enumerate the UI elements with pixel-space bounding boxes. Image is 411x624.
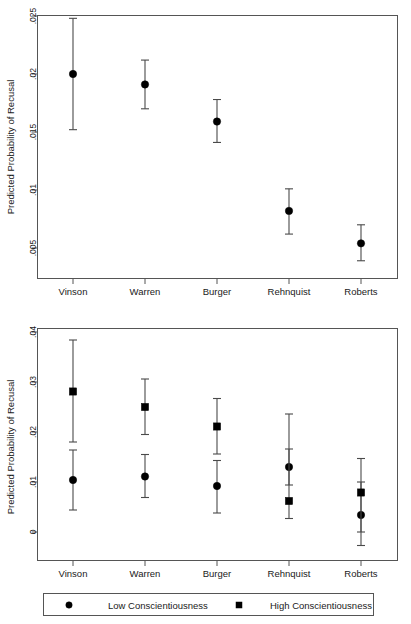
top-xtick-label-rehnquist: Rehnquist — [268, 286, 311, 297]
point-marker-circle — [69, 476, 76, 483]
top-panel: .025 .02 .015 .01 .005 Predicted Probabi… — [5, 7, 398, 297]
top-panel-y-ticks: .025 .02 .015 .01 .005 — [28, 7, 38, 256]
bottom-ytick-label: .03 — [28, 376, 38, 388]
bottom-ytick-label: 0 — [28, 529, 38, 534]
figure-root: .025 .02 .015 .01 .005 Predicted Probabi… — [0, 0, 411, 624]
bottom-xtick-label-burger: Burger — [203, 568, 232, 579]
legend-label-high: High Conscientiousness — [270, 600, 372, 611]
data-marker-group — [69, 450, 77, 510]
data-marker-group — [141, 455, 149, 498]
bottom-panel-y-axis-title: Predicted Probability of Recusal — [5, 380, 16, 515]
top-xtick-label-roberts: Roberts — [344, 286, 378, 297]
point-marker-circle — [141, 81, 148, 88]
legend: Low Conscientiousness High Conscientious… — [44, 594, 374, 616]
bottom-panel-data-layer — [69, 340, 365, 546]
data-marker-group — [357, 225, 365, 261]
legend-label-low: Low Conscientiousness — [108, 600, 208, 611]
bottom-xtick-label-warren: Warren — [130, 568, 161, 579]
point-marker-square — [141, 403, 148, 410]
top-panel-y-axis-title: Predicted Probability of Recusal — [5, 80, 16, 215]
data-marker-group — [69, 340, 77, 442]
top-panel-x-ticks: Vinson Warren Burger Rehnquist Roberts — [59, 279, 378, 298]
bottom-panel-y-ticks: .04 .03 .02 .01 0 — [28, 326, 38, 535]
top-xtick-label-warren: Warren — [130, 286, 161, 297]
point-marker-square — [357, 489, 364, 496]
point-marker-circle — [69, 70, 76, 77]
point-marker-circle — [213, 118, 220, 125]
top-ytick-label: .005 — [28, 239, 38, 256]
bottom-xtick-label-rehnquist: Rehnquist — [268, 568, 311, 579]
top-ytick-label: .01 — [28, 184, 38, 196]
bottom-panel: .04 .03 .02 .01 0 Predicted Probability … — [5, 326, 398, 579]
data-marker-group — [213, 461, 221, 514]
top-panel-frame — [38, 16, 398, 279]
point-marker-circle — [285, 207, 292, 214]
bottom-ytick-label: .04 — [28, 326, 38, 338]
point-marker-square — [285, 497, 292, 504]
data-marker-group — [69, 18, 77, 129]
data-marker-group — [213, 399, 221, 455]
bottom-panel-x-ticks: Vinson Warren Burger Rehnquist Roberts — [59, 561, 378, 580]
top-panel-data-layer — [69, 18, 365, 260]
point-marker-square — [213, 423, 220, 430]
data-marker-group — [141, 379, 149, 435]
point-marker-circle — [357, 240, 364, 247]
top-xtick-label-vinson: Vinson — [59, 286, 88, 297]
data-marker-group — [213, 100, 221, 143]
bottom-xtick-label-vinson: Vinson — [59, 568, 88, 579]
data-marker-group — [285, 189, 293, 234]
data-marker-group — [357, 459, 365, 533]
top-xtick-label-burger: Burger — [203, 286, 232, 297]
top-ytick-label: .02 — [28, 68, 38, 80]
point-marker-circle — [213, 482, 220, 489]
bottom-ytick-label: .01 — [28, 476, 38, 488]
bottom-ytick-label: .02 — [28, 426, 38, 438]
top-ytick-label: .025 — [28, 7, 38, 24]
two-panel-scatter-figure: .025 .02 .015 .01 .005 Predicted Probabi… — [0, 0, 411, 624]
legend-square-marker-icon — [236, 602, 242, 608]
point-marker-square — [69, 388, 76, 395]
legend-circle-marker-icon — [66, 602, 72, 608]
point-marker-circle — [141, 473, 148, 480]
top-ytick-label: .015 — [28, 123, 38, 140]
data-marker-group — [141, 60, 149, 109]
bottom-xtick-label-roberts: Roberts — [344, 568, 378, 579]
